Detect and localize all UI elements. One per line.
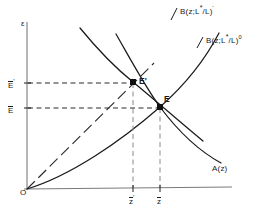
point-label-E-prime: E': [139, 77, 147, 86]
x-tick-label-z-bar-prime: z': [129, 194, 134, 206]
y-tick-E-base: E: [8, 106, 13, 115]
economics-equilibrium-diagram: ε O E' E z' z E' E B(z;L*/L)' B(z;L*/L)0…: [0, 0, 278, 212]
curve-label-A: A(z): [212, 165, 227, 173]
curve-label-B-prime-main: B(z;L: [180, 7, 200, 16]
leader-B-prime-label: [171, 8, 177, 20]
curve-label-B-prime-mid: /L): [203, 7, 213, 16]
marker-E-prime: [130, 79, 136, 85]
x-tick-z-bar-base: z: [157, 197, 161, 206]
y-axis-label: ε: [21, 20, 25, 28]
diagram-canvas: [0, 0, 278, 212]
origin-label: O: [20, 189, 26, 197]
curve-label-B-prime-sup: ': [213, 5, 214, 11]
y-tick-label-E-prime: E': [8, 78, 15, 90]
leader-B-zero-label: [197, 37, 203, 48]
x-tick-label-z-bar: z: [157, 194, 161, 206]
curve-A-of-z: [27, 33, 219, 189]
x-axis: [24, 187, 232, 189]
curve-label-B-zero: B(z;L*/L)0: [206, 33, 242, 45]
x-tick-z-bar-prime-mark: ': [133, 194, 134, 201]
curve-label-B-zero-sup: 0: [239, 34, 242, 40]
curve-label-B-prime: B(z;L*/L)': [180, 4, 214, 16]
curve-label-B-zero-main: B(z;L: [206, 36, 226, 45]
marker-E: [157, 104, 163, 110]
point-label-E: E: [164, 95, 170, 104]
y-tick-E-prime-mark: ': [13, 78, 14, 85]
y-tick-label-E: E: [8, 103, 13, 115]
curve-label-B-zero-mid: /L): [229, 36, 239, 45]
